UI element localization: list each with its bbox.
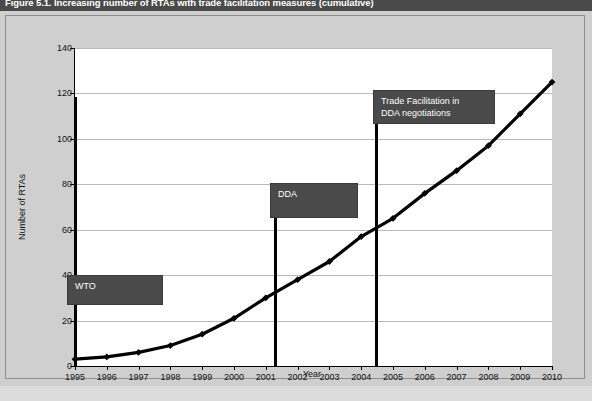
- x-tick-mark: [425, 366, 426, 370]
- x-tick-mark: [170, 366, 171, 370]
- x-tick-label-2007: 2007: [447, 372, 467, 382]
- x-tick-mark: [75, 366, 76, 370]
- y-tick-label-80: 80: [62, 179, 72, 189]
- x-tick-label-1999: 1999: [192, 372, 212, 382]
- x-tick-mark: [107, 366, 108, 370]
- x-tick-mark: [139, 366, 140, 370]
- annotation-box-wto: WTO: [67, 275, 163, 305]
- x-tick-label-1996: 1996: [97, 372, 117, 382]
- x-tick-label-1995: 1995: [65, 372, 85, 382]
- y-tick-label-0: 0: [67, 361, 72, 371]
- x-tick-mark: [329, 366, 330, 370]
- x-tick-mark: [457, 366, 458, 370]
- x-tick-mark: [298, 366, 299, 370]
- x-tick-label-2001: 2001: [256, 372, 276, 382]
- x-tick-mark: [520, 366, 521, 370]
- y-tick-label-60: 60: [62, 225, 72, 235]
- figure-title-band: Figure 5.1. Increasing number of RTAs wi…: [0, 0, 592, 11]
- x-axis-title: Year: [303, 369, 321, 379]
- x-tick-label-2006: 2006: [415, 372, 435, 382]
- x-tick-mark: [488, 366, 489, 370]
- figure-title-text: Figure 5.1. Increasing number of RTAs wi…: [5, 0, 373, 8]
- x-tick-label-2005: 2005: [383, 372, 403, 382]
- x-tick-mark: [202, 366, 203, 370]
- event-line-dda: [274, 206, 277, 366]
- figure-surface: Number of RTAs 140 120 100 80 60 40 20: [0, 11, 592, 386]
- y-tick-label-120: 120: [57, 88, 72, 98]
- x-tick-label-1998: 1998: [160, 372, 180, 382]
- annotation-box-tf-dda: Trade Facilitation in DDA negotiations: [373, 90, 495, 124]
- x-tick-label-2003: 2003: [319, 372, 339, 382]
- x-tick-mark: [361, 366, 362, 370]
- y-tick-label-100: 100: [57, 134, 72, 144]
- x-tick-label-2010: 2010: [542, 372, 562, 382]
- series-marker: [103, 354, 110, 361]
- series-marker: [135, 349, 142, 356]
- y-axis-title: Number of RTAs: [17, 174, 27, 240]
- annotation-box-dda: DDA: [270, 183, 358, 218]
- y-tick-label-20: 20: [62, 316, 72, 326]
- x-tick-mark: [234, 366, 235, 370]
- x-tick-label-1997: 1997: [129, 372, 149, 382]
- y-tick-label-140: 140: [57, 43, 72, 53]
- x-tick-mark: [393, 366, 394, 370]
- x-tick-label-2008: 2008: [478, 372, 498, 382]
- event-line-wto: [74, 97, 77, 366]
- event-line-tf-dda: [375, 92, 378, 366]
- x-tick-label-2004: 2004: [351, 372, 371, 382]
- x-tick-mark: [552, 366, 553, 370]
- x-tick-label-2000: 2000: [224, 372, 244, 382]
- x-tick-mark: [266, 366, 267, 370]
- figure-frame: Number of RTAs 140 120 100 80 60 40 20: [5, 15, 585, 379]
- page-bottom-strip: [0, 386, 592, 401]
- x-tick-label-2009: 2009: [510, 372, 530, 382]
